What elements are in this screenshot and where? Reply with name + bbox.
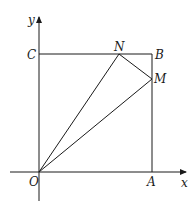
segment-ON (39, 54, 119, 172)
label-x-axis: x (181, 176, 188, 190)
segment-OM (39, 79, 152, 172)
label-y-axis: y (27, 13, 35, 27)
label-point-M: M (153, 72, 167, 86)
label-point-A: A (146, 175, 156, 189)
label-point-B: B (154, 48, 164, 62)
segment-NM (119, 54, 152, 79)
label-point-N: N (113, 40, 125, 54)
label-point-O: O (29, 175, 39, 189)
geometry-diagram: y x O A B C N M (0, 0, 195, 211)
label-point-C: C (27, 48, 36, 62)
